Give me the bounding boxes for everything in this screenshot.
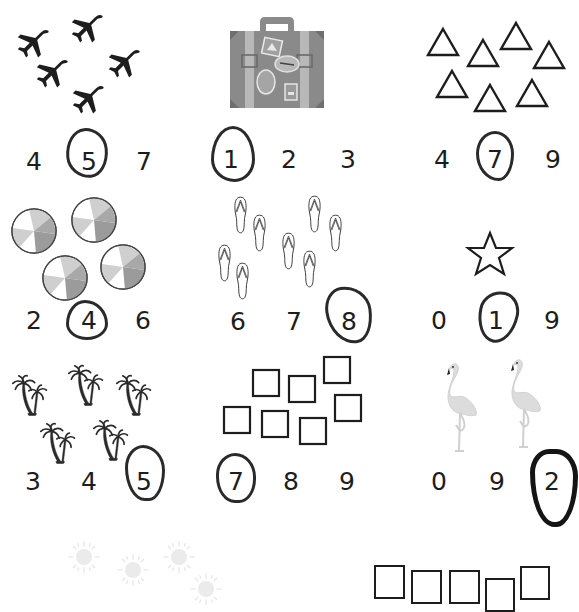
rectangle-icon [485,578,515,612]
answer-option-circled[interactable]: 8 [337,309,361,334]
answer-option-circled[interactable]: 1 [484,308,508,333]
answer-option[interactable]: 6 [226,309,250,334]
answer-option[interactable]: 0 [427,308,451,333]
rectangle-icon [449,570,480,604]
square-icon [333,393,363,423]
square-icon [287,374,317,404]
beach-ball-icon [10,207,58,255]
suitcase-icon [228,14,326,110]
sun-icon [161,539,197,575]
answer-option[interactable]: 3 [21,469,45,494]
answer-option[interactable]: 7 [132,149,156,174]
palm-tree-icon [68,363,110,409]
answer-option[interactable]: 6 [131,308,155,333]
airplane-icon [70,83,107,120]
beach-ball-icon [41,254,89,302]
problem-squares: 7 8 9 [195,345,385,510]
answer-option-circled[interactable]: 2 [540,469,564,494]
flip-flop-icon [328,213,343,253]
airplane-icon [106,47,143,84]
triangle-icon [434,68,470,100]
square-icon [322,355,352,385]
answer-option[interactable]: 3 [336,147,360,172]
triangle-icon [425,26,461,58]
problem-airplanes: 4 5 7 [0,0,190,185]
flip-flop-icon [252,213,267,253]
problem-rectangles [300,510,579,589]
answer-option[interactable]: 9 [540,308,564,333]
answer-option[interactable]: 9 [541,147,565,172]
answer-option-circled[interactable]: 5 [77,149,101,174]
problem-beach-balls: 2 4 6 [0,185,190,345]
answer-option[interactable]: 9 [335,469,359,494]
rectangle-icon [374,565,405,599]
triangle-icon [514,77,550,109]
rectangle-icon [411,570,442,604]
problem-star: 0 1 9 [390,185,579,345]
answer-option[interactable]: 0 [427,469,451,494]
flip-flop-icon [235,261,250,301]
rectangle-icon [520,566,550,600]
triangle-icon [465,37,501,69]
sun-icon [115,552,151,588]
problem-triangles: 4 7 9 [390,0,579,185]
flip-flop-icon [233,195,248,235]
answer-option-circled[interactable]: 4 [77,308,101,333]
answer-option-circled[interactable]: 5 [132,469,156,494]
answer-option[interactable]: 7 [282,309,306,334]
sun-icon [188,571,224,607]
flip-flop-icon [302,249,317,289]
airplane-icon [34,57,71,94]
problem-flip-flops: 6 7 8 [195,185,385,345]
square-icon [222,405,252,435]
sun-icon [66,539,102,575]
flip-flop-icon [217,243,232,283]
answer-option[interactable]: 9 [485,469,509,494]
square-icon [260,409,290,439]
answer-option[interactable]: 2 [277,147,301,172]
flip-flop-icon [281,231,296,271]
answer-option-circled[interactable]: 7 [224,469,248,494]
palm-tree-icon [116,373,158,419]
flamingo-icon [500,355,548,455]
square-icon [251,368,281,398]
answer-option[interactable]: 4 [430,147,454,172]
problem-suns [0,510,300,589]
star-icon [466,231,514,277]
triangle-icon [472,82,508,114]
triangle-icon [498,20,534,52]
flip-flop-icon [307,194,322,234]
problem-flamingos: 0 9 2 [390,345,579,530]
triangle-icon [531,39,567,71]
palm-tree-icon [40,421,82,467]
palm-tree-icon [93,418,135,464]
problem-suitcase: 1 2 3 [195,0,385,185]
problem-palm-trees: 3 4 5 [0,345,190,510]
answer-option[interactable]: 8 [279,469,303,494]
palm-tree-icon [12,373,54,419]
answer-option[interactable]: 4 [22,149,46,174]
answer-option[interactable]: 2 [22,308,46,333]
flamingo-icon [436,359,484,459]
answer-option[interactable]: 4 [77,469,101,494]
beach-ball-icon [70,196,118,244]
answer-option-circled[interactable]: 1 [219,147,243,172]
beach-ball-icon [99,243,147,291]
square-icon [298,416,328,446]
airplane-icon [69,12,106,49]
answer-option-circled[interactable]: 7 [483,147,507,172]
